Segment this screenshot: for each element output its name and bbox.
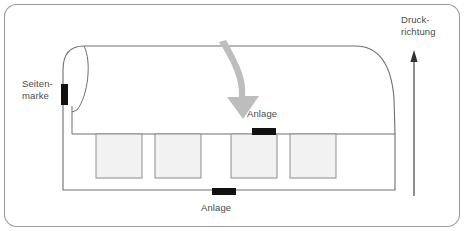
label-anlage-top: Anlage: [247, 108, 277, 120]
print-box: [290, 134, 336, 178]
anlage-top-marker: [252, 128, 276, 135]
print-box: [231, 134, 277, 178]
label-druckrichtung: Druck- richtung: [401, 14, 436, 37]
printing-direction-diagram: Seiten- marke Druck- richtung Anlage Anl…: [0, 0, 464, 231]
seitenmarke-marker: [61, 84, 68, 105]
anlage-bottom-marker: [212, 188, 236, 195]
label-seitenmarke: Seiten- marke: [22, 78, 53, 101]
print-box: [96, 134, 142, 178]
diagram-canvas: [0, 0, 464, 231]
label-anlage-bottom: Anlage: [201, 202, 231, 214]
print-box: [155, 134, 201, 178]
